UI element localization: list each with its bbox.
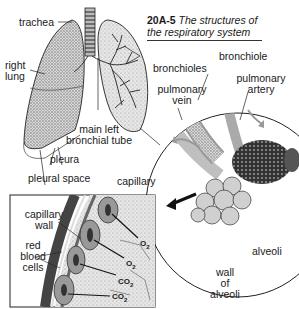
left-lung-drawing bbox=[98, 20, 148, 132]
gas-co2-upper: CO2 bbox=[118, 277, 133, 290]
gas-o2-upper: O2 bbox=[140, 239, 150, 252]
label-capillary-wall-2: wall bbox=[20, 220, 68, 231]
figure-number: 20A-5 bbox=[147, 14, 176, 26]
gas-co2-lower: CO2 bbox=[112, 292, 127, 305]
label-wall-of-alveoli-3: alveoli bbox=[205, 289, 245, 300]
alveoli-cluster bbox=[191, 177, 251, 225]
label-rbc-3: cells bbox=[14, 262, 52, 273]
label-main-left-2: bronchial tube bbox=[64, 135, 134, 146]
label-bronchioles: bronchioles bbox=[153, 63, 207, 74]
label-trachea: trachea bbox=[19, 17, 54, 28]
label-pleural-space: pleural space bbox=[28, 173, 90, 184]
label-capillary: capillary bbox=[117, 176, 156, 187]
caption-line-1: The structures of bbox=[179, 14, 258, 26]
caption-rule bbox=[147, 40, 262, 41]
caption-line-2: the respiratory system bbox=[147, 26, 250, 38]
label-pulmonary-artery-2: artery bbox=[231, 84, 291, 95]
gas-o2-lower: O2 bbox=[126, 259, 136, 272]
figure-caption: 20A-5 The structures of the respiratory … bbox=[147, 14, 257, 38]
trachea-drawing bbox=[85, 8, 95, 56]
label-pulmonary-vein-2: vein bbox=[152, 95, 212, 106]
label-alveoli: alveoli bbox=[252, 246, 282, 257]
label-right-lung-2: lung bbox=[5, 71, 25, 82]
label-bronchiole: bronchiole bbox=[219, 51, 267, 62]
label-pleura: pleura bbox=[50, 154, 79, 165]
